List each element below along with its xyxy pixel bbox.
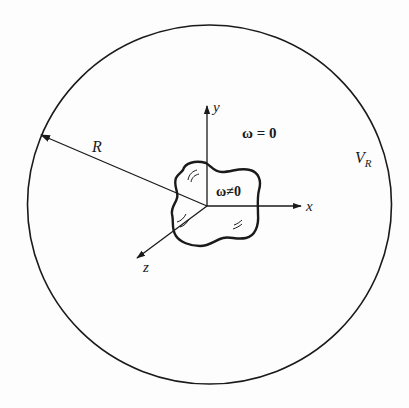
diagram-canvas: y x z R ω = 0 ω≠0 VR bbox=[0, 0, 409, 408]
y-axis-label: y bbox=[211, 99, 220, 115]
z-axis-label: z bbox=[142, 259, 149, 275]
outside-vorticity-label: ω = 0 bbox=[242, 125, 277, 141]
volume-label: VR bbox=[355, 149, 372, 169]
vorticity-region bbox=[172, 162, 260, 246]
radius-label: R bbox=[91, 138, 102, 155]
inside-vorticity-label: ω≠0 bbox=[216, 184, 241, 199]
volume-label-subscript: R bbox=[364, 157, 372, 169]
x-axis-label: x bbox=[305, 198, 313, 214]
